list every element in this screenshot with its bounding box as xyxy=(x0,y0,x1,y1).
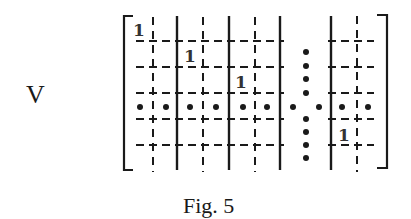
unit-entry-2: 1 xyxy=(184,46,196,66)
left-bracket xyxy=(124,16,133,170)
figure-caption: Fig. 5 xyxy=(183,193,234,219)
unit-entry-3: 1 xyxy=(235,72,247,92)
vertical-dashed-lines xyxy=(153,16,357,172)
ellipsis-dot-column xyxy=(303,49,309,161)
unit-entry-1: 1 xyxy=(133,20,145,40)
block-matrix-diagram: 1 1 1 1 xyxy=(0,0,411,219)
unit-entry-4: 1 xyxy=(338,125,350,145)
right-bracket xyxy=(377,15,387,168)
